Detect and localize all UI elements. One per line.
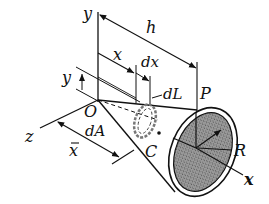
dx-label: dx [141, 53, 160, 71]
z-axis-label: z [24, 127, 34, 146]
dl-label: dL [163, 85, 183, 103]
y-small-label: y [61, 68, 72, 87]
xbar-label: x [69, 141, 78, 160]
x-axis-label: x [243, 170, 254, 189]
y-small-dimension [76, 67, 140, 102]
cone-centroid-diagram: y h x dx y dL P O z dA x C R x [0, 0, 269, 204]
centroid-label: C [145, 142, 157, 161]
x-label: x [113, 45, 122, 64]
r-label: R [233, 141, 246, 160]
da-label: dA [85, 122, 106, 140]
element-ring [130, 102, 161, 141]
dx-dimension [136, 73, 150, 104]
origin-label: O [84, 102, 97, 121]
p-label: P [199, 84, 211, 103]
y-axis-label: y [82, 4, 93, 23]
h-label: h [146, 18, 156, 37]
